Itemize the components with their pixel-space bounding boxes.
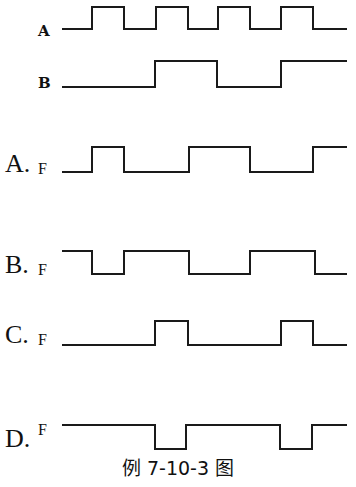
waveform [62,147,347,172]
option-label: C. [5,320,29,349]
waveform [62,251,347,274]
option-label: A. [5,149,30,178]
output-f-label: F [38,331,47,348]
signal-label: B [38,74,51,92]
waveform [62,321,347,345]
output-f-label: F [38,261,47,278]
option-label: B. [5,250,29,279]
output-f-label: F [38,421,47,438]
option-c: C.F [5,320,347,349]
figure-caption: 例 7-10-3 图 [0,453,356,480]
waveform [62,61,347,87]
waveform [62,7,347,29]
input-signal-b: B [38,61,347,92]
option-a: A.F [5,147,347,178]
waveform [62,425,347,449]
timing-diagram: AB A.FB.FC.FD.F [0,0,356,487]
answer-option-waveforms: A.FB.FC.FD.F [5,147,347,453]
option-d: D.F [5,421,347,453]
option-b: B.F [5,250,347,279]
signal-label: A [37,22,50,40]
output-f-label: F [38,160,47,177]
input-signal-a: A [37,7,347,40]
option-label: D. [5,424,30,453]
input-waveforms: AB [37,7,347,92]
